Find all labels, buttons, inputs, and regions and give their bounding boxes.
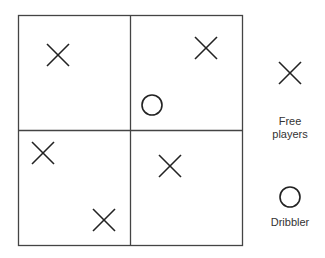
legend-free-text: Free [260,115,320,128]
dribbler-circle-icon [142,95,162,115]
legend-players-text: players [260,128,320,141]
legend-free-player-icon [279,62,301,84]
legend-free-players-label: Free players [260,115,320,141]
free-player-x-icon [93,209,115,231]
free-player-x-icon [47,44,69,66]
free-player-x-icon [195,37,217,59]
legend-dribbler-icon [280,187,300,207]
free-player-x-icon [32,142,54,164]
legend-dribbler-label: Dribbler [260,216,320,229]
free-player-x-icon [159,155,181,177]
